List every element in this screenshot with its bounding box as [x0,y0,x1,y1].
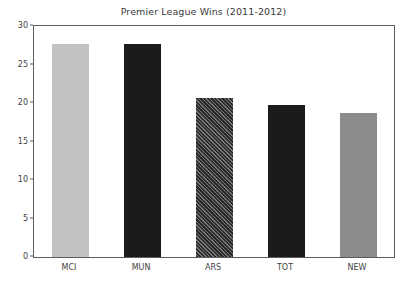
chart-title: Premier League Wins (2011-2012) [0,6,407,17]
y-tick-label: 30 [18,21,28,30]
bar-mci [52,44,89,257]
x-tick-label-new: NEW [348,263,367,272]
y-tick-label: 0 [23,252,28,261]
bar-mun [124,44,161,257]
x-tick-label-mci: MCI [62,263,77,272]
y-tick-label: 20 [18,98,28,107]
y-tick-label: 15 [18,136,28,145]
y-axis: 051015202530 [0,25,33,257]
plot-area [33,25,395,258]
y-tick-label: 25 [18,59,28,68]
x-tick-label-tot: TOT [277,263,293,272]
x-tick-label-mun: MUN [132,263,151,272]
x-tick-label-ars: ARS [205,263,221,272]
bar-ars [196,98,233,257]
bar-tot [268,105,305,257]
x-axis: MCIMUNARSTOTNEW [33,257,395,279]
bar-new [340,113,377,257]
bar-chart-figure: Premier League Wins (2011-2012) 05101520… [0,0,407,283]
y-tick-label: 10 [18,175,28,184]
y-tick-label: 5 [23,213,28,222]
